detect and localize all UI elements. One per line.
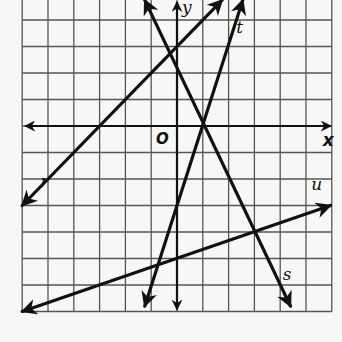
line-label-t: t xyxy=(236,17,243,37)
line-label-u: u xyxy=(311,174,322,194)
x-axis-label: x xyxy=(322,130,335,150)
y-axis-label: y xyxy=(181,0,192,17)
origin-label: O xyxy=(156,130,169,148)
coordinate-plane: rstu x y O xyxy=(0,0,342,342)
line-label-r: r xyxy=(40,171,49,191)
line-label-s: s xyxy=(283,264,292,284)
